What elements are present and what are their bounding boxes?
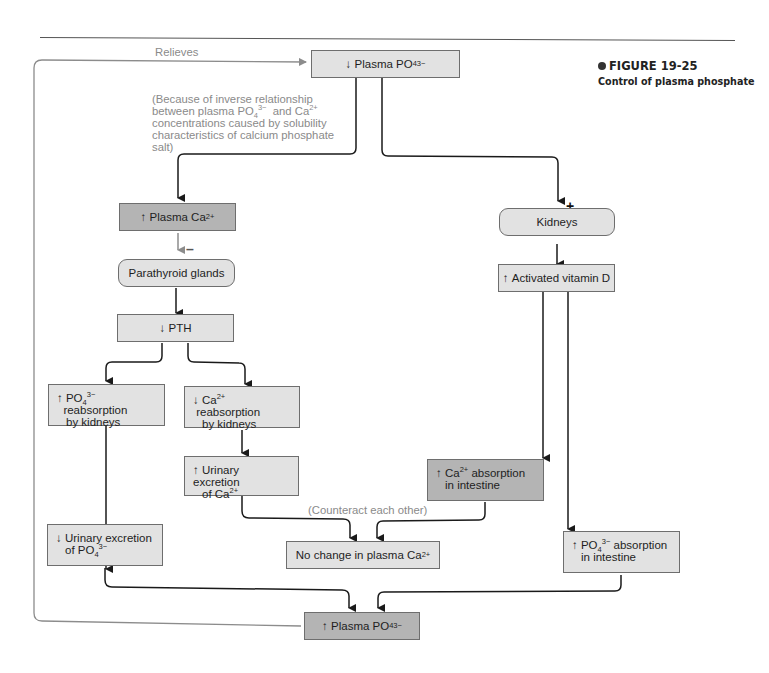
node-po4-reabsorption-increase: ↑ PO43− reabsorption by kidneys — [48, 384, 165, 426]
node-pth-decrease: ↓ PTH — [117, 314, 234, 342]
up-arrow-icon: ↑ — [141, 211, 147, 223]
node-ca-absorption-increase: ↑ Ca2+ absorption in intestine — [427, 459, 544, 501]
inverse-relationship-note: (Because of inverse relationship between… — [152, 93, 342, 153]
node-kidneys: Kidneys — [499, 208, 615, 236]
node-plasma-po4-decrease: ↓ Plasma PO43− — [311, 50, 460, 78]
node-urinary-po4-decrease: ↓ Urinary excretion of PO43− — [47, 524, 163, 566]
up-arrow-icon: ↑ — [572, 539, 578, 551]
relieves-label: Relieves — [155, 46, 198, 58]
node-urinary-ca-increase: ↑ Urinary excretion of Ca2+ — [184, 456, 299, 496]
up-arrow-icon: ↑ — [436, 467, 442, 479]
node-parathyroid-glands: Parathyroid glands — [118, 259, 235, 287]
up-arrow-icon: ↑ — [57, 392, 63, 404]
node-ca-reabsorption-decrease: ↓ Ca2+ reabsorption by kidneys — [184, 386, 300, 428]
up-arrow-icon: ↑ — [503, 272, 509, 284]
node-activated-vitamin-d: ↑ Activated vitamin D — [498, 264, 615, 292]
down-arrow-icon: ↓ — [160, 322, 166, 334]
node-no-change-plasma-ca: No change in plasma Ca2+ — [286, 541, 440, 569]
counteract-note: (Counteract each other) — [308, 504, 427, 516]
down-arrow-icon: ↓ — [193, 394, 199, 406]
up-arrow-icon: ↑ — [193, 464, 199, 476]
down-arrow-icon: ↓ — [346, 58, 352, 70]
node-po4-absorption-increase: ↑ PO43− absorption in intestine — [563, 531, 680, 573]
up-arrow-icon: ↑ — [322, 620, 328, 632]
minus-sign: – — [186, 241, 194, 257]
node-plasma-po4-increase: ↑ Plasma PO43− — [304, 612, 420, 640]
down-arrow-icon: ↓ — [56, 532, 62, 544]
node-plasma-ca-increase: ↑ Plasma Ca2+ — [119, 203, 236, 231]
